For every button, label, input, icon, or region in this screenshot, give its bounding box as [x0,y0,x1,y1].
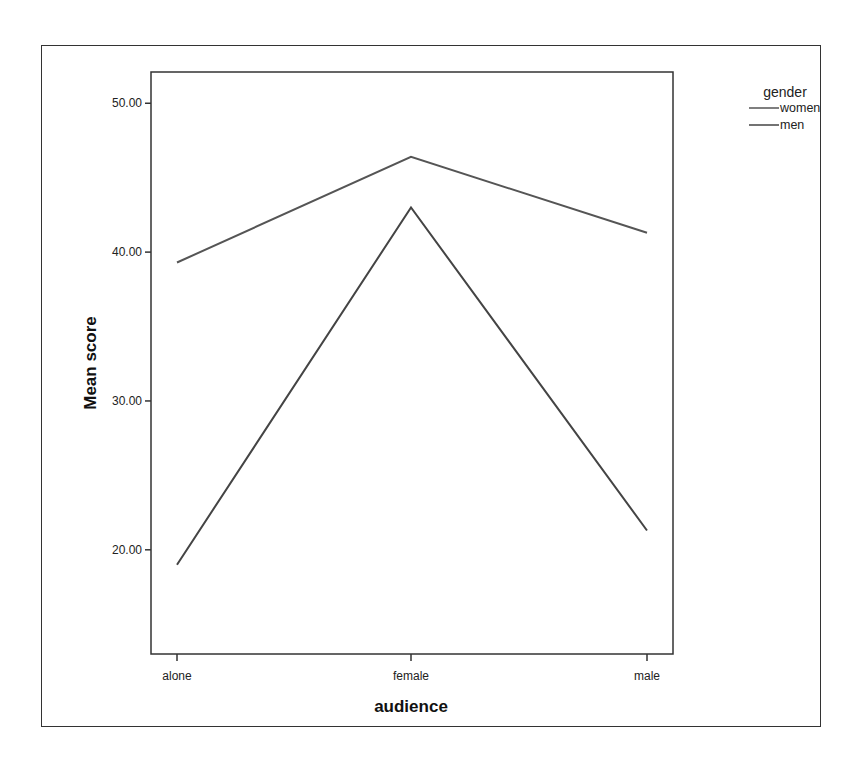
series-line-men [177,208,647,565]
x-tick-label: female [393,669,429,683]
x-tick-label: alone [162,669,192,683]
y-axis-title: Mean score [81,316,100,410]
legend: gender womenmen [749,84,820,132]
legend-label-women: women [779,101,820,115]
line-chart: 20.0030.0040.0050.00 alonefemalemale aud… [0,0,864,760]
plot-area [151,72,673,654]
series-lines [177,157,647,565]
x-axis-title: audience [374,697,448,716]
y-tick-label: 30.00 [112,394,142,408]
y-tick-label: 20.00 [112,543,142,557]
y-axis: 20.0030.0040.0050.00 [112,96,151,557]
y-tick-label: 40.00 [112,245,142,259]
y-tick-label: 50.00 [112,96,142,110]
legend-label-men: men [780,118,804,132]
legend-title: gender [763,84,807,100]
x-tick-label: male [634,669,660,683]
x-axis: alonefemalemale [162,654,660,683]
